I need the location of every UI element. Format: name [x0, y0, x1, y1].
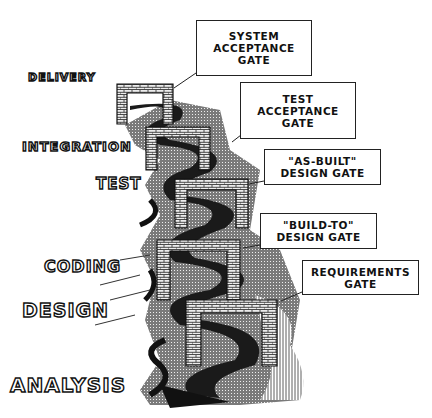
- callout-system-acceptance-gate: SYSTEM ACCEPTANCE GATE: [196, 20, 312, 76]
- callout-line: DESIGN GATE: [276, 231, 360, 243]
- diagram-canvas: DELIVERY INTEGRATION TEST CODING DESIGN …: [0, 0, 432, 418]
- callout-line: ACCEPTANCE: [213, 42, 295, 54]
- callout-line: DESIGN GATE: [280, 167, 364, 179]
- phase-label-analysis: ANALYSIS: [10, 375, 126, 395]
- callout-test-acceptance-gate: TEST ACCEPTANCE GATE: [240, 82, 356, 139]
- phase-label-integration: INTEGRATION: [22, 140, 132, 153]
- callout-line: GATE: [213, 54, 295, 66]
- callout-line: GATE: [257, 117, 339, 129]
- callout-requirements-gate: REQUIREMENTS GATE: [302, 260, 419, 295]
- callout-line: GATE: [311, 278, 410, 290]
- callout-line: REQUIREMENTS: [311, 266, 410, 278]
- phase-label-coding: CODING: [44, 259, 121, 275]
- callout-as-built-design-gate: "AS-BUILT" DESIGN GATE: [264, 149, 381, 185]
- callout-line: "AS-BUILT": [280, 155, 364, 167]
- callout-line: SYSTEM: [213, 30, 295, 42]
- callout-line: ACCEPTANCE: [257, 105, 339, 117]
- callout-line: TEST: [257, 93, 339, 105]
- phase-label-design: DESIGN: [22, 301, 109, 320]
- phase-label-delivery: DELIVERY: [28, 72, 96, 83]
- phase-label-test: TEST: [96, 177, 142, 192]
- callout-build-to-design-gate: "BUILD-TO" DESIGN GATE: [260, 213, 377, 249]
- callout-line: "BUILD-TO": [276, 219, 360, 231]
